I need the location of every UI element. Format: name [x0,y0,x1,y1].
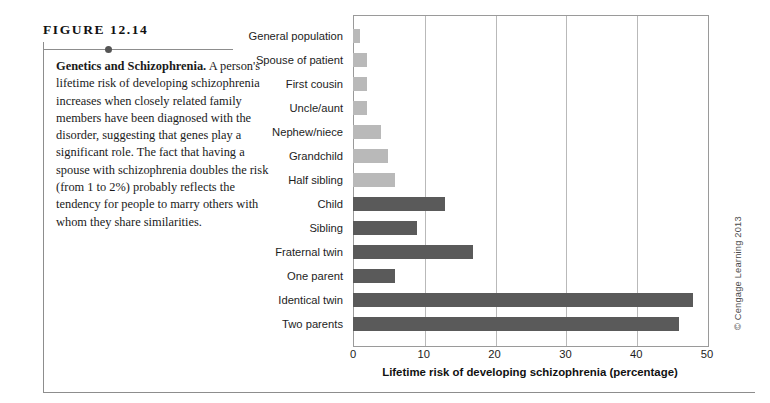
bar [353,125,381,139]
bar-row [353,240,707,264]
bar [353,173,395,187]
x-tick-label: 50 [701,348,713,360]
x-tick-label: 40 [630,348,642,360]
bar-row [353,120,707,144]
bar-row [353,192,707,216]
bar-row [353,96,707,120]
category-label: Sibling [88,216,348,240]
bar [353,245,473,259]
bar [353,149,388,163]
category-label: Uncle/aunt [88,96,348,120]
bar [353,269,395,283]
bar-chart: General populationSpouse of patientFirst… [0,0,770,403]
x-axis-ticks: 01020304050 [353,348,707,364]
bar [353,77,367,91]
x-tick-label: 20 [488,348,500,360]
bar-row [353,312,707,336]
bar [353,197,445,211]
bar-row [353,216,707,240]
x-axis-title: Lifetime risk of developing schizophreni… [353,366,707,378]
bar [353,221,417,235]
bar-row [353,72,707,96]
x-tick-label: 0 [350,348,356,360]
bar-row [353,48,707,72]
bars-group [353,15,707,345]
category-label: One parent [88,264,348,288]
bar-row [353,168,707,192]
category-label: Nephew/niece [88,120,348,144]
category-label: Grandchild [88,144,348,168]
bar [353,293,693,307]
category-label: Half sibling [88,168,348,192]
copyright-notice: © Cengage Learning 2013 [733,190,743,330]
bar [353,101,367,115]
category-label: General population [88,24,348,48]
category-label: Child [88,192,348,216]
x-tick-label: 30 [559,348,571,360]
x-tick-label: 10 [418,348,430,360]
bar-row [353,24,707,48]
category-label: Identical twin [88,288,348,312]
bar [353,53,367,67]
category-label: Fraternal twin [88,240,348,264]
bar-row [353,264,707,288]
category-label: Spouse of patient [88,48,348,72]
category-label: Two parents [88,312,348,336]
figure-page: FIGURE 12.14 Genetics and Schizophrenia.… [0,0,770,403]
category-label: First cousin [88,72,348,96]
bar-row [353,144,707,168]
category-labels: General populationSpouse of patientFirst… [0,15,348,345]
bar [353,29,360,43]
bar [353,317,679,331]
bar-row [353,288,707,312]
